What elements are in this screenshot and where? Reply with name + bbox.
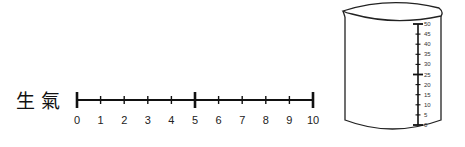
beaker: 05101520253035404550 (343, 3, 442, 129)
number-line-tick-label: 8 (263, 114, 269, 126)
beaker-rim (343, 3, 442, 21)
number-line-tick-label: 2 (121, 114, 127, 126)
number-line-tick-label: 4 (168, 114, 174, 126)
diagram-canvas: 012345678910 05101520253035404550 (0, 0, 465, 147)
beaker-scale-label: 45 (424, 31, 431, 37)
beaker-scale-label: 35 (424, 51, 431, 57)
beaker-scale-label: 40 (424, 41, 431, 47)
beaker-scale-label: 25 (424, 72, 431, 78)
beaker-scale-label: 10 (424, 102, 431, 108)
beaker-scale-label: 30 (424, 61, 431, 67)
number-line: 012345678910 (74, 92, 319, 126)
number-line-tick-label: 7 (239, 114, 245, 126)
number-line-tick-label: 1 (98, 114, 104, 126)
number-line-tick-label: 3 (145, 114, 151, 126)
number-line-tick-label: 5 (192, 114, 198, 126)
beaker-scale-label: 0 (424, 122, 428, 128)
beaker-scale-label: 15 (424, 92, 431, 98)
number-line-labels: 012345678910 (74, 114, 319, 126)
beaker-scale-label: 50 (424, 21, 431, 27)
beaker-scale-label: 5 (424, 112, 428, 118)
number-line-tick-label: 9 (286, 114, 292, 126)
number-line-tick-label: 10 (307, 114, 319, 126)
number-line-tick-label: 6 (216, 114, 222, 126)
number-line-tick-label: 0 (74, 114, 80, 126)
beaker-scale-labels: 05101520253035404550 (424, 21, 431, 128)
beaker-scale-label: 20 (424, 82, 431, 88)
